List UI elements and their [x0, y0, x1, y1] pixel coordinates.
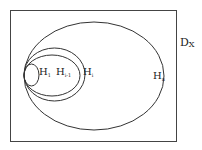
set-hi-1-ellipse: [24, 55, 80, 96]
set-hn-label: Hn: [153, 71, 165, 84]
nested-sets-diagram: DX H1 Hi-1 Hi Hn: [0, 0, 202, 150]
universe-rectangle: [11, 11, 177, 142]
set-h1-ellipse: [24, 64, 39, 86]
set-hi-1-label: Hi-1: [56, 67, 71, 80]
set-hi-label: Hi: [83, 67, 93, 80]
set-h1-label: H1: [39, 67, 51, 80]
diagram-shapes: [0, 0, 202, 150]
set-hi-ellipse: [24, 48, 85, 101]
universe-label: DX: [180, 38, 195, 50]
